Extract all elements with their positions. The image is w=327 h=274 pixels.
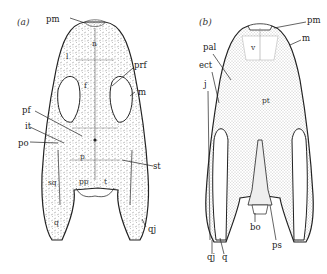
label-a-prefrontal: prf xyxy=(134,61,147,70)
label-a-premaxilla: pm xyxy=(46,15,60,24)
label-a-lacrimal: l xyxy=(66,53,68,61)
label-a-maxilla: m xyxy=(138,88,146,97)
label-b-basioccipital: bo xyxy=(250,223,261,232)
label-a-postparietal: pp xyxy=(79,178,89,186)
label-a-tabular: t xyxy=(104,178,107,186)
panel-a-tag: (a) xyxy=(17,17,29,27)
panel-b-tag: (b) xyxy=(199,17,212,27)
label-a-parietal: p xyxy=(80,153,85,161)
label-a-nasal: n xyxy=(92,40,97,48)
label-b-pterygoid: pt xyxy=(262,97,270,105)
label-b-vomer: v xyxy=(251,44,255,52)
label-b-parasphenoid: ps xyxy=(272,241,282,250)
label-a-squamosal: sq xyxy=(48,179,57,187)
label-b-maxilla: m xyxy=(302,34,310,43)
label-a-postfrontal: pf xyxy=(22,106,31,115)
label-a-postorbital: po xyxy=(18,139,29,148)
label-b-premaxilla: pm xyxy=(307,16,321,25)
skull-figure xyxy=(0,0,327,274)
label-a-frontal: f xyxy=(84,82,87,90)
label-b-ectopterygoid: ect xyxy=(199,61,212,70)
label-a-supratemporal: st xyxy=(153,162,161,171)
skull-ventral-view xyxy=(206,22,313,254)
label-b-palatine: pal xyxy=(203,43,216,52)
label-b-quadrate: q xyxy=(222,253,227,262)
label-b-quadratojugal: qj xyxy=(207,253,215,262)
label-a-intertemporal: it xyxy=(25,122,31,131)
label-a-quadratojugal: qj xyxy=(148,225,156,234)
label-b-jugal: j xyxy=(204,80,207,89)
label-a-quadrate: q xyxy=(54,219,59,227)
skull-dorsal-view xyxy=(30,18,153,240)
